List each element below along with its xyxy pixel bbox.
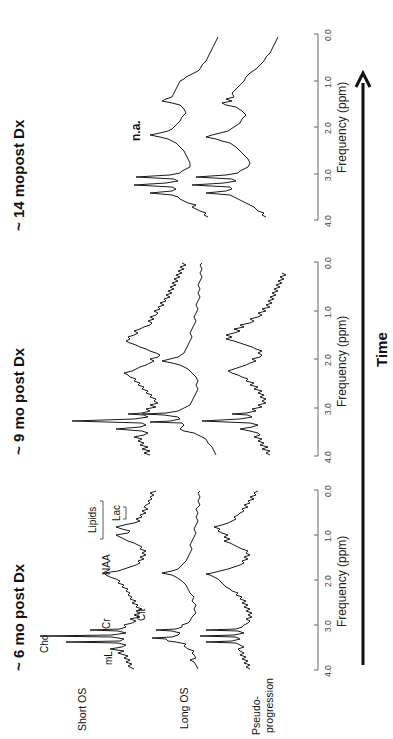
tick-label-14mo-3: 3.0 — [323, 169, 333, 181]
row-label-long-os: Long OS — [178, 688, 190, 729]
na-label: n.a. — [129, 120, 143, 141]
lipids-bracket — [100, 501, 103, 539]
peak-label-lipids: Lipids — [87, 507, 98, 533]
spectrum-14mo-long-os — [192, 37, 278, 217]
lac-bracket — [123, 507, 126, 519]
row-label-pseudo-1: Pseudo- — [250, 695, 262, 735]
tick-label-6mo-3: 3.0 — [323, 620, 333, 632]
x-axis-title-14mo: Frequency (ppm) — [335, 82, 349, 173]
tick-label-6mo-0: 0.0 — [323, 485, 333, 497]
spectra-figure: Short OS Long OS Pseudo- progression ~ 6… — [0, 0, 393, 739]
x-axis-title-6mo: Frequency (ppm) — [335, 536, 349, 627]
tick-label-14mo-2: 2.0 — [323, 122, 333, 134]
panel-title-6mo: ~ 6 mo post Dx — [10, 563, 27, 671]
tick-label-6mo-1: 1.0 — [323, 530, 333, 542]
tick-label-14mo-4: 4.0 — [323, 215, 333, 227]
spectrum-9mo-pseudo — [202, 273, 286, 455]
spectrum-9mo-long-os — [142, 263, 216, 455]
tick-label-14mo-1: 1.0 — [323, 76, 333, 88]
row-label-short-os: Short OS — [76, 688, 88, 731]
tick-label-14mo-0: 0.0 — [323, 29, 333, 41]
tick-label-9mo-2: 2.0 — [323, 354, 333, 366]
peak-label-cr: Cr — [101, 618, 112, 629]
tick-label-9mo-0: 0.0 — [323, 257, 333, 269]
tick-label-9mo-3: 3.0 — [323, 403, 333, 415]
tick-label-6mo-2: 2.0 — [323, 575, 333, 587]
spectrum-6mo-short-os — [40, 491, 156, 669]
x-axis-title-9mo: Frequency (ppm) — [335, 316, 349, 407]
tick-label-9mo-4: 4.0 — [323, 451, 333, 463]
row-label-pseudo-2: progression — [263, 678, 275, 733]
spectrum-6mo-pseudo — [200, 491, 258, 669]
peak-label-lac: Lac — [111, 505, 122, 521]
tick-label-9mo-1: 1.0 — [323, 306, 333, 318]
panel-title-9mo: ~ 9 mo post Dx — [10, 347, 27, 455]
spectrum-14mo-short-os — [134, 37, 218, 217]
panel-title-14mo: ~ 14 mopost Dx — [10, 119, 27, 231]
figure-landscape: Short OS Long OS Pseudo- progression ~ 6… — [0, 0, 393, 739]
peak-label-cho: Cho — [39, 634, 50, 653]
peak-label-ml: mL — [103, 651, 114, 665]
spectrum-6mo-long-os — [152, 491, 200, 669]
tick-label-6mo-4: 4.0 — [323, 665, 333, 677]
time-label: Time — [373, 332, 390, 367]
